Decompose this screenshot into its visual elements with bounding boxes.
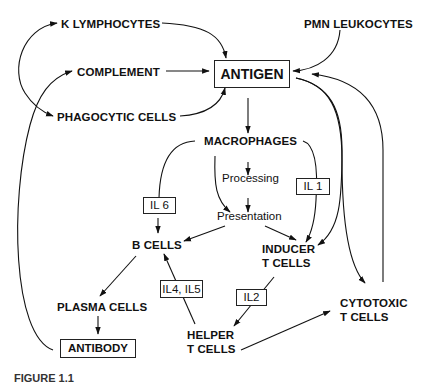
node-presentation: Presentation	[217, 209, 282, 223]
node-inducer-line1: INDUCER	[262, 242, 315, 256]
arrow-klymph-antigen	[162, 23, 226, 58]
node-inducer-line2: T CELLS	[262, 256, 311, 270]
node-helper-line1: HELPER	[187, 328, 234, 342]
cytokine-il1: IL 1	[296, 178, 330, 195]
arrow-presentation-inducer	[265, 226, 296, 240]
cytokine-il6: IL 6	[143, 197, 176, 214]
arrow-presentation-bcells	[184, 226, 225, 241]
node-phagocytic-cells: PHAGOCYTIC CELLS	[57, 110, 176, 124]
cytokine-il4-il5: IL4, IL5	[160, 280, 203, 298]
node-antibody: ANTIBODY	[60, 339, 136, 358]
figure-caption: FIGURE 1.1	[14, 372, 74, 384]
node-macrophages: MACROPHAGES	[204, 134, 297, 148]
node-cytotoxic-line2: T CELLS	[340, 310, 389, 324]
node-processing: Processing	[222, 171, 279, 185]
arrow-antigen-inducer	[296, 78, 342, 245]
node-k-lymphocytes: K LYMPHOCYTES	[61, 17, 160, 31]
arrow-pmn-antigen	[293, 30, 340, 71]
node-complement: COMPLEMENT	[77, 65, 160, 79]
node-cytotoxic-line1: CYTOTOXIC	[340, 296, 408, 310]
arrow-helper-cytotoxic	[241, 311, 330, 350]
node-antigen: ANTIGEN	[214, 60, 290, 88]
arrow-phagocytic-antigen	[180, 88, 225, 116]
cytokine-il2: IL2	[236, 289, 267, 306]
node-pmn-leukocytes: PMN LEUKOCYTES	[304, 17, 413, 31]
arrow-bcells-plasma	[100, 256, 136, 296]
node-plasma-cells: PLASMA CELLS	[57, 300, 147, 314]
node-b-cells: B CELLS	[132, 238, 182, 252]
line-macrophages-il6	[159, 141, 195, 198]
node-helper-line2: T CELLS	[187, 342, 236, 356]
